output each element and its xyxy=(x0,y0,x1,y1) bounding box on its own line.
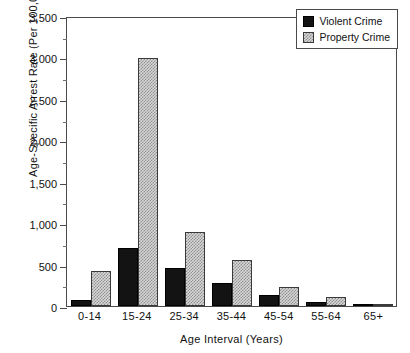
y-tick-label: 3,000 xyxy=(29,53,57,65)
bar-chart: Age-Specific Arrest Rate (Per 100,000) 0… xyxy=(0,0,410,353)
bar-group xyxy=(255,18,302,306)
bar-groups xyxy=(67,18,396,306)
bar-property[interactable] xyxy=(91,271,111,306)
y-tick-label: 2,500 xyxy=(29,95,57,107)
y-tick-major xyxy=(60,184,67,185)
bar-property[interactable] xyxy=(279,287,299,306)
y-tick-label: 2,000 xyxy=(29,136,57,148)
y-tick-major xyxy=(60,267,67,268)
x-tick-label: 35-44 xyxy=(208,310,255,322)
y-tick-major xyxy=(60,59,67,60)
y-tick-label: 3,500 xyxy=(29,12,57,24)
x-axis-title: Age Interval (Years) xyxy=(66,333,397,345)
bar-group xyxy=(349,18,396,306)
y-tick-major xyxy=(60,101,67,102)
bar-property[interactable] xyxy=(138,58,158,306)
x-tick-label: 55-64 xyxy=(302,310,349,322)
legend-label: Property Crime xyxy=(319,31,390,43)
legend-swatch-violent xyxy=(303,16,314,27)
legend-item[interactable]: Violent Crime xyxy=(303,15,390,27)
bar-violent[interactable] xyxy=(353,304,373,306)
bar-violent[interactable] xyxy=(165,268,185,306)
legend-item[interactable]: Property Crime xyxy=(303,31,390,43)
y-tick-label: 0 xyxy=(51,302,57,314)
bar-group xyxy=(208,18,255,306)
bar-property[interactable] xyxy=(185,232,205,306)
x-tick-label: 45-54 xyxy=(255,310,302,322)
bar-violent[interactable] xyxy=(259,295,279,306)
bar-property[interactable] xyxy=(373,304,393,306)
y-tick-label: 1,000 xyxy=(29,219,57,231)
y-tick-major xyxy=(60,18,67,19)
y-tick-label: 500 xyxy=(39,261,57,273)
y-tick-major xyxy=(60,308,67,309)
bar-violent[interactable] xyxy=(118,248,138,306)
chart-legend: Violent CrimeProperty Crime xyxy=(296,9,398,49)
x-tick-label: 25-34 xyxy=(161,310,208,322)
bar-group xyxy=(67,18,114,306)
x-axis-tick-labels: 0-1415-2425-3435-4445-5455-6465+ xyxy=(66,310,397,322)
bar-group xyxy=(114,18,161,306)
bar-group xyxy=(302,18,349,306)
plot-area: 05001,0001,5002,0002,5003,0003,500 xyxy=(66,17,397,307)
bar-violent[interactable] xyxy=(212,283,232,306)
x-tick-label: 15-24 xyxy=(113,310,160,322)
y-tick-major xyxy=(60,142,67,143)
bar-property[interactable] xyxy=(232,260,252,306)
x-tick-label: 65+ xyxy=(350,310,397,322)
y-tick-label: 1,500 xyxy=(29,178,57,190)
y-tick-major xyxy=(60,225,67,226)
bar-violent[interactable] xyxy=(71,300,91,306)
legend-label: Violent Crime xyxy=(319,15,382,27)
legend-swatch-property xyxy=(303,32,314,43)
bar-violent[interactable] xyxy=(306,302,326,306)
bar-group xyxy=(161,18,208,306)
bar-property[interactable] xyxy=(326,297,346,306)
x-tick-label: 0-14 xyxy=(66,310,113,322)
